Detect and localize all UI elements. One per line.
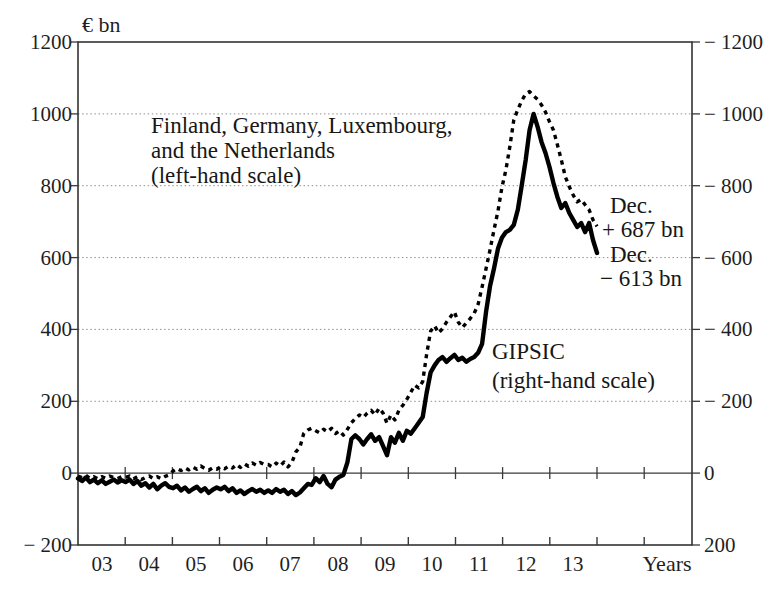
y-left-tick-label: 800 [0, 173, 72, 199]
y-left-tick-label: − 200 [0, 532, 72, 558]
y-left-tick-label: 0 [0, 460, 72, 486]
x-tick-label: 04 [125, 551, 173, 577]
y-right-tick-label: − 1200 [704, 29, 776, 55]
x-tick-label: 09 [361, 551, 409, 577]
endpoint-label-fgln: Dec. + 687 bn [602, 194, 684, 242]
x-tick-label: 07 [266, 551, 314, 577]
x-tick-label: 08 [314, 551, 362, 577]
x-axis-title: Years [627, 551, 707, 577]
y-axis-unit-label: € bn [82, 12, 121, 38]
endpoint-label-gipsic-line2: − 613 bn [600, 267, 682, 291]
endpoint-label-fgln-line2: + 687 bn [602, 218, 684, 242]
series-label-gipsic: GIPSIC (right-hand scale) [492, 337, 655, 395]
x-tick-label: 10 [408, 551, 456, 577]
x-tick-label: 06 [219, 551, 267, 577]
y-right-tick-label: − 600 [704, 245, 776, 271]
y-left-tick-label: 200 [0, 388, 72, 414]
series-label-gipsic-line2: (right-hand scale) [492, 366, 655, 395]
series-label-fgln: Finland, Germany, Luxembourg, and the Ne… [151, 113, 453, 188]
x-tick-label: 11 [455, 551, 503, 577]
endpoint-label-fgln-line1: Dec. [602, 194, 684, 218]
endpoint-label-gipsic-line1: Dec. [600, 243, 682, 267]
y-right-tick-label: − 200 [704, 388, 776, 414]
x-tick-label: 05 [172, 551, 220, 577]
y-right-tick-label: − 400 [704, 316, 776, 342]
y-right-tick-label: − 1000 [704, 101, 776, 127]
y-right-tick-label: 200 [704, 532, 776, 558]
chart-canvas [0, 0, 776, 597]
x-tick-label: 13 [549, 551, 597, 577]
y-left-tick-label: 400 [0, 316, 72, 342]
series-label-fgln-line3: (left-hand scale) [151, 163, 453, 188]
y-left-tick-label: 1000 [0, 101, 72, 127]
y-right-tick-label: 0 [704, 460, 776, 486]
y-left-tick-label: 600 [0, 245, 72, 271]
endpoint-label-gipsic: Dec. − 613 bn [600, 243, 682, 291]
target-balances-figure: € bn 120010008006004002000− 200− 1200− 1… [0, 0, 776, 597]
series-label-fgln-line2: and the Netherlands [151, 138, 453, 163]
series-label-fgln-line1: Finland, Germany, Luxembourg, [151, 113, 453, 138]
x-tick-label: 03 [78, 551, 126, 577]
y-left-tick-label: 1200 [0, 29, 72, 55]
x-tick-label: 12 [502, 551, 550, 577]
series-label-gipsic-line1: GIPSIC [492, 337, 655, 366]
y-right-tick-label: − 800 [704, 173, 776, 199]
